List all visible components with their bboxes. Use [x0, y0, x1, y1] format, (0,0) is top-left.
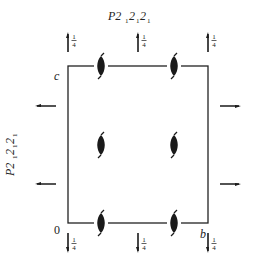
vertical-screw-arrows: 141414141414 — [66, 32, 217, 253]
origin-label: 0 — [54, 223, 60, 237]
svg-text:4: 4 — [142, 41, 146, 49]
up-arrow-icon: 14 — [136, 32, 147, 52]
title: P2 1 2 1 2 1 — [107, 9, 151, 25]
down-arrow-icon: 14 — [66, 233, 77, 253]
right-arrow-icon — [220, 183, 241, 186]
svg-text:1: 1 — [142, 236, 146, 244]
svg-text:1: 1 — [147, 17, 151, 25]
quarter-height-label: 14 — [142, 236, 147, 252]
up-arrow-icon: 14 — [206, 32, 217, 52]
svg-text:2: 2 — [3, 149, 17, 155]
svg-text:2: 2 — [3, 138, 17, 144]
quarter-height-label: 14 — [212, 33, 217, 49]
quarter-height-label: 14 — [142, 33, 147, 49]
svg-text:1: 1 — [72, 33, 76, 41]
svg-text:1: 1 — [212, 236, 216, 244]
twofold-screw-axis-icon — [167, 210, 181, 236]
side-title: P2 1 2 1 2 1 — [3, 133, 19, 177]
svg-text:P2: P2 — [107, 9, 121, 23]
twofold-screw-axis-icon — [167, 53, 181, 79]
left-arrow-icon — [35, 182, 56, 185]
twofold-screw-axis-icon — [94, 53, 108, 79]
twofold-screw-axis-icon — [97, 132, 105, 158]
space-group-diagram: P2 1 2 1 2 1 P2 1 2 1 2 1 c 0 b 14141414… — [0, 0, 254, 268]
quarter-height-label: 14 — [72, 33, 77, 49]
twofold-screw-axis-icon — [94, 210, 108, 236]
svg-text:2: 2 — [129, 9, 135, 23]
svg-text:4: 4 — [72, 41, 76, 49]
cell-outline — [68, 66, 208, 223]
unit-cell-frame — [68, 66, 208, 223]
svg-text:1: 1 — [142, 33, 146, 41]
axis-label-b: b — [200, 227, 206, 241]
down-arrow-icon: 14 — [206, 233, 217, 253]
svg-text:2: 2 — [140, 9, 146, 23]
left-arrow-icon — [35, 104, 56, 107]
horizontal-screw-arrows — [35, 104, 241, 186]
svg-text:1: 1 — [212, 33, 216, 41]
svg-text:4: 4 — [142, 244, 146, 252]
twofold-screw-axis-icon — [170, 132, 178, 158]
axis-label-c: c — [54, 69, 60, 83]
svg-text:4: 4 — [72, 244, 76, 252]
quarter-height-label: 14 — [212, 236, 217, 252]
right-arrow-icon — [220, 105, 241, 108]
screw-axis-symbols — [94, 53, 181, 236]
down-arrow-icon: 14 — [136, 233, 147, 253]
svg-text:4: 4 — [212, 244, 216, 252]
svg-text:P2: P2 — [3, 163, 17, 177]
svg-text:1: 1 — [11, 133, 19, 137]
svg-text:1: 1 — [72, 236, 76, 244]
svg-text:4: 4 — [212, 41, 216, 49]
up-arrow-icon: 14 — [66, 32, 77, 52]
quarter-height-label: 14 — [72, 236, 77, 252]
